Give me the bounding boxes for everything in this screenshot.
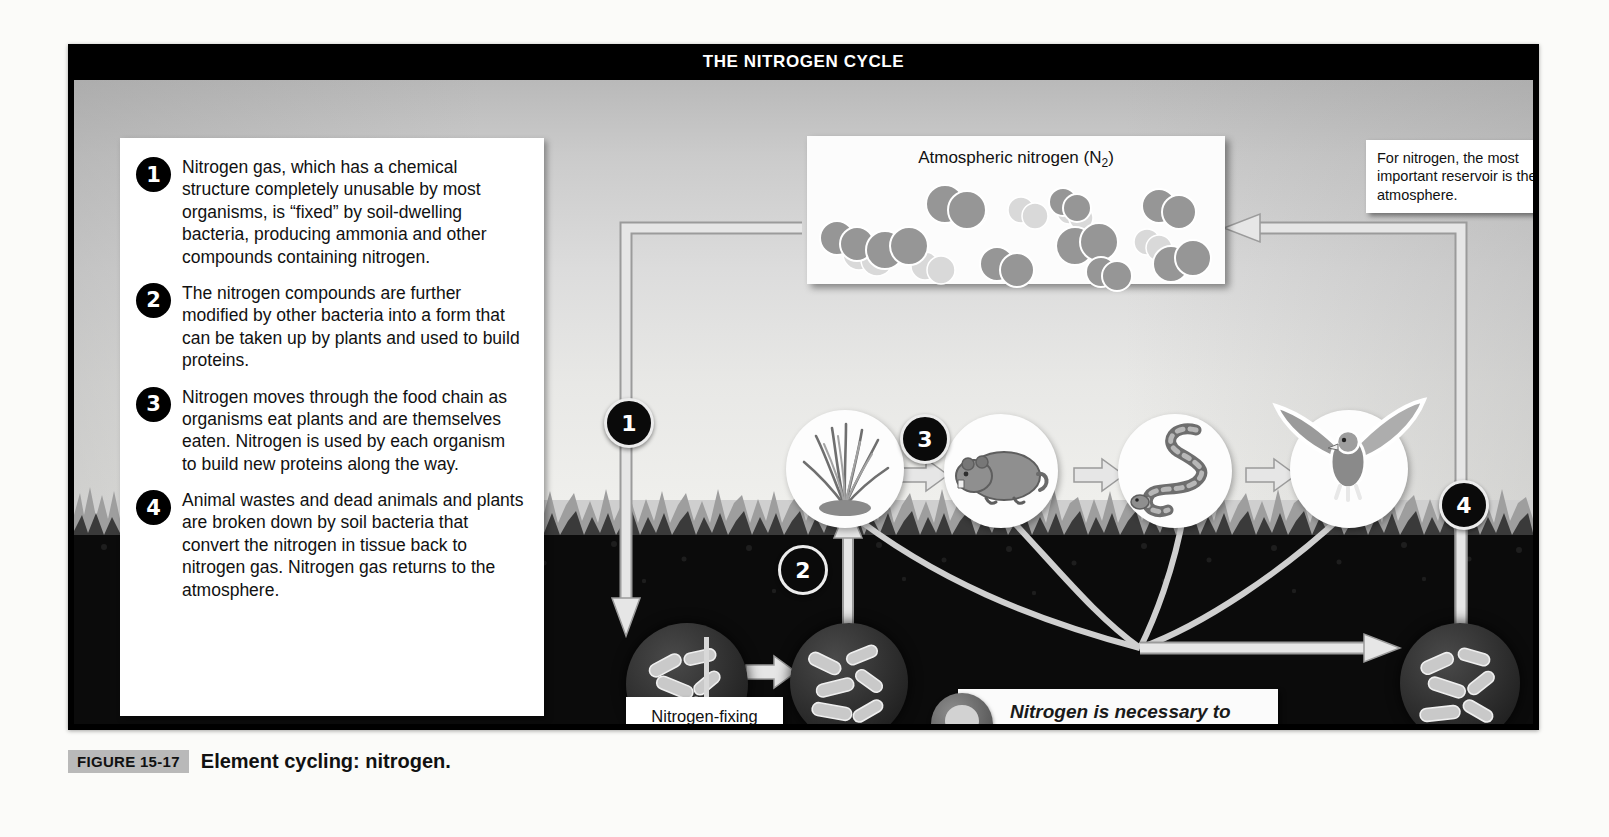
reservoir-callout-text: For nitrogen, the most important reservo… — [1366, 140, 1533, 213]
bubble-grass-plant — [786, 410, 904, 528]
figure-title-bar: THE NITROGEN CYCLE — [68, 44, 1539, 80]
callout-leader-line — [704, 637, 709, 697]
snake-icon — [1118, 414, 1232, 528]
step-number-3: 3 — [136, 387, 171, 422]
figure-caption-title: Element cycling: nitrogen. — [201, 750, 451, 773]
decomposer-bacteria-colony — [1400, 623, 1520, 724]
arrow-organisms-to-decomposers — [846, 510, 1342, 648]
diagram-marker-4: 4 — [1439, 480, 1489, 530]
atmospheric-nitrogen-box: Atmospheric nitrogen (N2) — [807, 136, 1225, 284]
diagram-scene: Atmospheric nitrogen (N2) — [74, 80, 1533, 724]
step-number-4: 4 — [136, 490, 171, 525]
step-item-4: 4 Animal wastes and dead animals and pla… — [136, 489, 524, 601]
step-text-2: The nitrogen compounds are further modif… — [182, 282, 524, 372]
arrow-rodent-to-snake — [1074, 459, 1124, 491]
hawk-icon — [1268, 394, 1428, 524]
rodent-icon — [944, 414, 1058, 528]
diagram-marker-2: 2 — [778, 545, 828, 595]
tip-callout-text: Nitrogen is necessary to build all amino… — [958, 689, 1278, 724]
tip-callout: Nitrogen is necessary to build all amino… — [958, 689, 1278, 724]
step-item-3: 3 Nitrogen moves through the food chain … — [136, 386, 524, 476]
bacteria-rods-icon — [1400, 623, 1520, 724]
arrow-decomposers-to-soil-bacteria — [1140, 634, 1400, 662]
step-text-3: Nitrogen moves through the food chain as… — [182, 386, 524, 476]
bacteria-colony-2 — [790, 623, 908, 724]
nitrogen-fixing-bacteria-callout: Nitrogen-fixing bacteria — [626, 697, 783, 724]
bacteria-rods-icon — [790, 623, 908, 724]
bubble-snake — [1118, 414, 1232, 528]
step-number-2: 2 — [136, 283, 171, 318]
figure-frame: THE NITROGEN CYCLE — [68, 44, 1539, 730]
arrow-bacteria1-to-bacteria2 — [746, 656, 796, 688]
step-number-1: 1 — [136, 157, 171, 192]
figure-number-badge: FIGURE 15-17 — [68, 750, 189, 773]
steps-panel: 1 Nitrogen gas, which has a chemical str… — [120, 138, 544, 716]
reservoir-callout: For nitrogen, the most important reservo… — [1366, 140, 1533, 213]
atmospheric-nitrogen-label: Atmospheric nitrogen (N2) — [807, 148, 1225, 170]
bubble-rodent — [944, 414, 1058, 528]
figure-caption: FIGURE 15-17 Element cycling: nitrogen. — [68, 750, 451, 773]
diagram-marker-1: 1 — [604, 398, 654, 448]
grass-plant-icon — [786, 410, 904, 528]
step-item-2: 2 The nitrogen compounds are further mod… — [136, 282, 524, 372]
step-item-1: 1 Nitrogen gas, which has a chemical str… — [136, 156, 524, 268]
page-title: THE NITROGEN CYCLE — [703, 52, 905, 72]
nitrogen-molecules — [807, 180, 1225, 284]
step-text-1: Nitrogen gas, which has a chemical struc… — [182, 156, 524, 268]
figure-page: THE NITROGEN CYCLE — [0, 0, 1609, 837]
nitrogen-fixing-bacteria-text: Nitrogen-fixing bacteria — [626, 697, 783, 724]
lightbulb-icon — [931, 693, 993, 724]
bubble-hawk — [1290, 410, 1408, 528]
step-text-4: Animal wastes and dead animals and plant… — [182, 489, 524, 601]
diagram-marker-3: 3 — [900, 414, 950, 464]
